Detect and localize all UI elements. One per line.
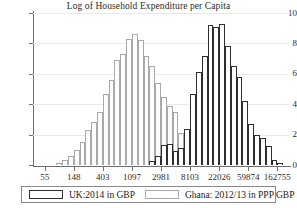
x-tick-label: 2981 bbox=[152, 172, 170, 182]
x-tick bbox=[74, 167, 75, 171]
x-tick-label: 148 bbox=[67, 172, 81, 182]
histogram-bar bbox=[277, 163, 283, 165]
plot-area bbox=[33, 13, 289, 165]
x-tick-label: 1097 bbox=[123, 172, 141, 182]
y-tick bbox=[29, 165, 34, 166]
histogram-chart: Log of Household Expenditure per Capita … bbox=[0, 0, 297, 208]
x-tick bbox=[190, 167, 191, 171]
x-tick bbox=[132, 167, 133, 171]
x-tick-label: 403 bbox=[96, 172, 110, 182]
legend-label-ghana: Ghana: 2012/13 in PPP GBP bbox=[185, 190, 294, 200]
x-tick-label: 8103 bbox=[181, 172, 199, 182]
x-axis-line bbox=[33, 166, 291, 167]
legend-item-ghana[interactable]: Ghana: 2012/13 in PPP GBP bbox=[135, 187, 294, 202]
legend-label-uk: UK:2014 in GBP bbox=[69, 190, 135, 200]
x-tick-label: 22026 bbox=[208, 172, 231, 182]
legend-swatch-uk-icon bbox=[29, 190, 63, 199]
legend-swatch-ghana-icon bbox=[145, 190, 179, 199]
x-tick-label: 55 bbox=[40, 172, 49, 182]
x-tick bbox=[277, 167, 278, 171]
x-tick bbox=[161, 167, 162, 171]
x-tick-label: 59874 bbox=[237, 172, 260, 182]
x-tick bbox=[45, 167, 46, 171]
x-tick-label: 162755 bbox=[264, 172, 291, 182]
x-tick bbox=[219, 167, 220, 171]
legend-item-uk[interactable]: UK:2014 in GBP bbox=[22, 187, 135, 202]
chart-legend: UK:2014 in GBP Ghana: 2012/13 in PPP GBP bbox=[21, 186, 276, 203]
chart-title: Log of Household Expenditure per Capita bbox=[0, 1, 297, 11]
x-tick bbox=[103, 167, 104, 171]
x-tick bbox=[248, 167, 249, 171]
